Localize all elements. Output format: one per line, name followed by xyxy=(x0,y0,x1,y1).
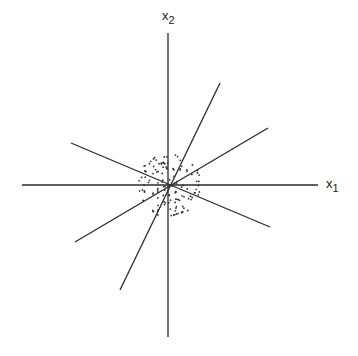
data-point xyxy=(142,189,144,191)
data-point xyxy=(138,180,140,182)
data-point xyxy=(170,199,172,201)
data-point xyxy=(157,188,159,190)
data-point xyxy=(155,159,157,161)
data-point xyxy=(183,196,185,198)
data-point xyxy=(175,191,177,193)
data-point xyxy=(175,210,177,212)
data-point xyxy=(165,202,167,204)
data-point xyxy=(166,156,168,158)
data-point xyxy=(150,160,152,162)
data-point xyxy=(186,188,188,190)
x1-axis-label: x1 xyxy=(326,176,339,194)
data-point xyxy=(157,182,159,184)
data-point xyxy=(157,171,159,173)
data-point xyxy=(199,191,201,193)
radial-lines xyxy=(71,83,270,290)
data-point xyxy=(181,186,183,188)
data-point xyxy=(186,170,188,172)
data-point xyxy=(155,169,157,171)
data-point xyxy=(173,169,175,171)
diagram-canvas xyxy=(0,0,358,356)
data-point xyxy=(144,191,146,193)
data-point xyxy=(170,215,172,217)
data-point xyxy=(153,166,155,168)
data-point xyxy=(174,202,176,204)
data-point xyxy=(163,195,165,197)
data-point xyxy=(157,197,159,199)
data-point xyxy=(161,163,163,165)
data-point xyxy=(143,165,145,167)
data-point xyxy=(164,204,166,206)
data-point xyxy=(139,190,141,192)
data-point xyxy=(153,158,155,160)
data-point xyxy=(179,159,181,161)
data-point xyxy=(190,199,192,201)
data-point xyxy=(173,214,175,216)
data-point xyxy=(175,154,177,156)
data-point xyxy=(197,194,199,196)
data-point xyxy=(157,204,159,206)
data-point xyxy=(158,163,160,165)
data-point xyxy=(192,164,194,166)
data-point xyxy=(149,179,151,181)
data-point xyxy=(179,169,181,171)
data-point xyxy=(183,207,185,209)
data-point xyxy=(177,156,179,158)
data-point xyxy=(177,199,179,201)
data-point xyxy=(162,166,164,168)
data-point xyxy=(163,186,165,188)
data-point xyxy=(152,173,154,175)
data-point xyxy=(190,195,192,197)
data-point xyxy=(175,207,177,209)
data-point xyxy=(188,198,190,200)
data-point xyxy=(198,181,200,183)
data-point xyxy=(181,212,183,214)
data-point xyxy=(169,179,171,181)
data-point xyxy=(191,197,193,199)
x2-axis-label: x2 xyxy=(162,8,175,26)
data-point xyxy=(169,208,171,210)
data-point xyxy=(187,210,189,212)
x1-label-sub: 1 xyxy=(333,182,339,194)
data-point xyxy=(175,198,177,200)
data-point xyxy=(144,176,146,178)
data-point xyxy=(144,170,146,172)
data-point xyxy=(181,195,183,197)
data-point xyxy=(152,193,154,195)
data-point xyxy=(196,180,198,182)
data-point xyxy=(198,174,200,176)
data-point xyxy=(182,206,184,208)
data-point xyxy=(163,156,165,158)
x2-label-sub: 2 xyxy=(169,14,175,26)
data-point xyxy=(161,173,163,175)
data-point xyxy=(164,163,166,165)
data-point xyxy=(177,213,179,215)
data-point xyxy=(195,188,197,190)
data-point xyxy=(149,163,151,165)
data-point xyxy=(181,165,183,167)
data-point xyxy=(141,177,143,179)
data-point xyxy=(197,172,199,174)
data-point xyxy=(194,192,196,194)
data-point xyxy=(152,209,154,211)
data-point xyxy=(148,181,150,183)
